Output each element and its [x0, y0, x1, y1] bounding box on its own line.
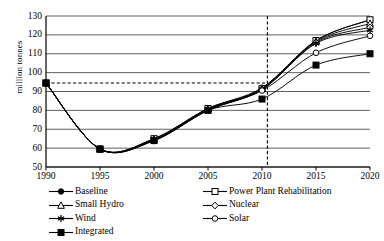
legend-symbol	[48, 184, 74, 197]
legend-marker-open-square	[202, 185, 228, 198]
series-wind	[43, 27, 373, 153]
legend-marker-filled-square	[48, 226, 74, 239]
data-point-marker	[97, 146, 103, 152]
data-point-marker	[151, 138, 157, 144]
legend-label: Baseline	[74, 186, 108, 196]
series-nuclear	[43, 24, 373, 153]
legend-label: Wind	[74, 213, 96, 223]
legend-item-power-plant-rehabilitation[interactable]: Power Plant Rehabilitation	[202, 184, 331, 198]
series-line	[46, 54, 370, 153]
series-line	[46, 27, 370, 152]
legend-marker-open-circle	[202, 212, 228, 225]
chart-legend: BaselineSmall HydroWindIntegrated Power …	[44, 184, 374, 240]
data-point-marker	[367, 33, 373, 39]
data-point-marker	[259, 88, 265, 94]
series-solar	[43, 33, 373, 153]
legend-symbol	[202, 198, 228, 211]
legend-label: Integrated	[74, 226, 114, 236]
data-point-marker	[205, 107, 211, 113]
legend-item-solar[interactable]: Solar	[202, 211, 331, 225]
legend-symbol	[48, 225, 74, 238]
legend-label: Small Hydro	[74, 199, 124, 209]
legend-item-nuclear[interactable]: Nuclear	[202, 198, 331, 212]
legend-symbol	[48, 211, 74, 224]
series-line	[46, 24, 370, 153]
legend-label: Power Plant Rehabilitation	[228, 186, 331, 196]
data-point-marker	[313, 62, 319, 68]
legend-marker-open-diamond	[202, 199, 228, 212]
data-point-marker	[313, 50, 319, 56]
legend-label: Nuclear	[228, 199, 259, 209]
legend-item-baseline[interactable]: Baseline	[48, 184, 124, 198]
legend-column-left: BaselineSmall HydroWindIntegrated	[48, 184, 124, 238]
legend-symbol	[48, 198, 74, 211]
data-point-marker	[259, 96, 265, 102]
legend-marker-filled-circle	[48, 185, 74, 198]
legend-marker-asterisk	[48, 212, 74, 225]
legend-symbol	[202, 211, 228, 224]
legend-marker-open-triangle	[48, 199, 74, 212]
legend-item-integrated[interactable]: Integrated	[48, 225, 124, 239]
legend-symbol	[202, 184, 228, 197]
data-point-marker	[367, 51, 373, 57]
legend-item-small-hydro[interactable]: Small Hydro	[48, 198, 124, 212]
legend-column-right: Power Plant RehabilitationNuclearSolar	[202, 184, 331, 225]
legend-item-wind[interactable]: Wind	[48, 211, 124, 225]
legend-label: Solar	[228, 213, 249, 223]
series-integrated	[43, 51, 373, 153]
